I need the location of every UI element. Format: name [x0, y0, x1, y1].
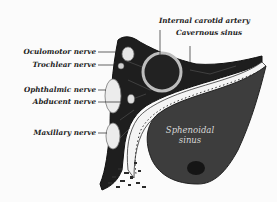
- internal-carotid-artery: [143, 53, 181, 91]
- maxillary-nerve: [106, 123, 120, 149]
- label-oculomotor-nerve: Oculomotor nerve: [23, 48, 96, 55]
- label-trochlear-nerve: Trochlear nerve: [32, 61, 96, 68]
- label-sphenoidal-sinus-line1: Sphenoidal: [160, 126, 220, 135]
- label-ophthalmic-nerve: Ophthalmic nerve: [24, 86, 96, 93]
- diagram-stage: Internal carotid artery Cavernous sinus …: [0, 0, 277, 202]
- trochlear-nerve: [118, 63, 124, 69]
- label-maxillary-nerve: Maxillary nerve: [33, 129, 96, 136]
- label-internal-carotid-artery: Internal carotid artery: [159, 17, 250, 24]
- label-cavernous-sinus: Cavernous sinus: [176, 29, 242, 36]
- sinus-shadow: [187, 161, 205, 175]
- abducent-nerve: [128, 95, 135, 104]
- label-sphenoidal-sinus-line2: sinus: [160, 136, 220, 145]
- label-abducent-nerve: Abducent nerve: [33, 98, 96, 105]
- ophthalmic-nerve: [105, 79, 121, 113]
- oculomotor-nerve: [122, 47, 134, 61]
